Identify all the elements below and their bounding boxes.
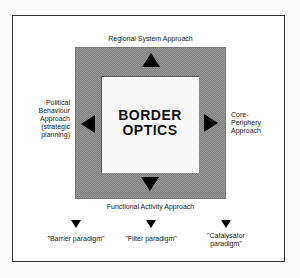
arrow-down-icon xyxy=(141,177,159,191)
paradigm-arrow-icon xyxy=(146,220,156,228)
top-label: Regional System Approach xyxy=(75,35,226,43)
right-label-line: Approach xyxy=(231,127,261,135)
left-label-line: Political xyxy=(20,99,70,107)
right-label-line: Periphery xyxy=(231,119,261,127)
arrow-right-icon xyxy=(204,114,218,132)
bottom-label: Functional Activity Approach xyxy=(75,203,226,211)
paradigm-label: "Barrier paradigm" xyxy=(36,235,116,243)
left-label-line: Approach xyxy=(20,115,70,123)
center-title-line2: OPTICS xyxy=(101,123,199,138)
paradigm-arrow-icon xyxy=(221,220,231,228)
paradigm-catalysator: "Catalysator paradigm" xyxy=(186,232,266,248)
center-title: BORDER OPTICS xyxy=(101,108,199,138)
paradigm-filter: "Filter paradigm" xyxy=(111,235,191,243)
right-label-line: Core- xyxy=(231,111,261,119)
left-label-line: planning) xyxy=(20,131,70,139)
paradigm-label: "Filter paradigm" xyxy=(111,235,191,243)
paradigm-barrier: "Barrier paradigm" xyxy=(36,235,116,243)
center-title-line1: BORDER xyxy=(101,108,199,123)
arrow-left-icon xyxy=(81,115,95,133)
right-label: Core- Periphery Approach xyxy=(231,111,261,135)
paradigm-label: "Catalysator xyxy=(186,232,266,240)
left-label-line: (strategic xyxy=(20,123,70,131)
paradigm-arrow-icon xyxy=(71,220,81,228)
left-label-line: Behaviour xyxy=(20,107,70,115)
left-label: Political Behaviour Approach (strategic … xyxy=(20,99,70,139)
paradigm-label: paradigm" xyxy=(186,240,266,248)
arrow-up-icon xyxy=(142,53,160,67)
